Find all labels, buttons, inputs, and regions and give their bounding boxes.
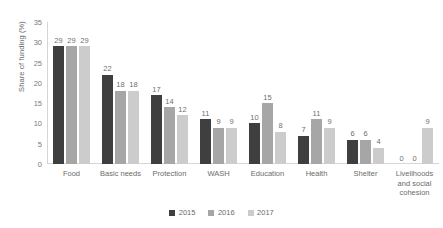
bar-value-label: 9	[229, 118, 233, 126]
bar-2015[interactable]	[151, 95, 162, 164]
y-axis-tick-0: 0	[38, 160, 42, 169]
bar-value-label: 6	[363, 130, 367, 138]
legend-item-2017[interactable]: 2017	[248, 208, 274, 217]
chart-legend: 201520162017	[0, 208, 443, 217]
bar-group: 221818	[96, 22, 145, 164]
bar-value-label: 11	[202, 110, 210, 118]
bar-2017[interactable]	[226, 128, 237, 165]
bar-2016[interactable]	[262, 103, 273, 164]
bar-group: 009	[390, 22, 439, 164]
x-axis-label: Education	[243, 169, 292, 198]
bar-2017[interactable]	[275, 132, 286, 164]
bar-slot: 0	[396, 22, 407, 164]
bar-slot: 6	[347, 22, 358, 164]
bar-2017[interactable]	[177, 115, 188, 164]
bar-2015[interactable]	[102, 75, 113, 164]
legend-swatch-icon	[248, 210, 254, 216]
legend-label: 2017	[257, 208, 274, 217]
bar-value-label: 9	[425, 118, 429, 126]
bar-2015[interactable]	[200, 119, 211, 164]
bar-groups: 2929292218181714121199101587119664009	[47, 22, 439, 164]
bar-2015[interactable]	[347, 140, 358, 164]
bar-slot: 14	[164, 22, 175, 164]
bar-value-label: 14	[165, 98, 173, 106]
bar-2016[interactable]	[66, 46, 77, 164]
bar-2015[interactable]	[249, 123, 260, 164]
bar-group: 1199	[194, 22, 243, 164]
bar-2017[interactable]	[324, 128, 335, 165]
bar-slot: 10	[249, 22, 260, 164]
legend-item-2015[interactable]: 2015	[169, 208, 195, 217]
bar-value-label: 29	[54, 37, 62, 45]
bar-chart: Share of funding (%) 35302520151050 2929…	[0, 0, 443, 228]
bar-value-label: 29	[80, 37, 88, 45]
bar-2017[interactable]	[422, 128, 433, 165]
bar-2016[interactable]	[115, 91, 126, 164]
bar-value-label: 18	[116, 81, 124, 89]
bar-value-label: 7	[301, 126, 305, 134]
x-axis-label: Food	[47, 169, 96, 198]
x-axis-label: Basic needs	[96, 169, 145, 198]
y-axis-tick-25: 25	[34, 58, 42, 67]
bar-2015[interactable]	[53, 46, 64, 164]
bar-2016[interactable]	[164, 107, 175, 164]
bar-slot: 8	[275, 22, 286, 164]
chart-title	[120, 0, 380, 2]
y-axis-tick-20: 20	[34, 78, 42, 87]
bar-value-label: 18	[129, 81, 137, 89]
bar-value-label: 22	[103, 65, 111, 73]
bar-slot: 9	[422, 22, 433, 164]
bar-slot: 0	[409, 22, 420, 164]
bar-2017[interactable]	[79, 46, 90, 164]
bar-2017[interactable]	[373, 148, 384, 164]
x-axis-label: Livelihoods and social cohesion	[390, 169, 439, 198]
bar-value-label: 8	[278, 122, 282, 130]
bar-slot: 9	[226, 22, 237, 164]
bar-slot: 6	[360, 22, 371, 164]
bar-value-label: 4	[376, 138, 380, 146]
bar-slot: 15	[262, 22, 273, 164]
x-axis-label: Health	[292, 169, 341, 198]
legend-swatch-icon	[169, 210, 175, 216]
bar-value-label: 6	[350, 130, 354, 138]
bar-slot: 18	[115, 22, 126, 164]
bar-slot: 18	[128, 22, 139, 164]
bar-slot: 29	[53, 22, 64, 164]
y-axis-tick-15: 15	[34, 99, 42, 108]
y-axis-title: Share of funding (%)	[17, 0, 26, 117]
bar-slot: 12	[177, 22, 188, 164]
bar-value-label: 12	[178, 106, 186, 114]
plot-area: 35302520151050 2929292218181714121199101…	[47, 22, 439, 164]
y-axis-tick-10: 10	[34, 119, 42, 128]
bar-group: 10158	[243, 22, 292, 164]
bar-slot: 29	[66, 22, 77, 164]
bar-2015[interactable]	[298, 136, 309, 164]
bar-slot: 9	[324, 22, 335, 164]
bar-value-label: 15	[263, 94, 271, 102]
legend-label: 2016	[218, 208, 235, 217]
bar-value-label: 29	[67, 37, 75, 45]
bar-2016[interactable]	[213, 128, 224, 165]
bar-value-label: 0	[399, 155, 403, 163]
bar-2016[interactable]	[360, 140, 371, 164]
bar-2017[interactable]	[128, 91, 139, 164]
x-axis-label: WASH	[194, 169, 243, 198]
bar-slot: 7	[298, 22, 309, 164]
bar-value-label: 0	[412, 155, 416, 163]
y-axis-tick-35: 35	[34, 18, 42, 27]
bar-value-label: 10	[250, 114, 258, 122]
x-axis-label: Shelter	[341, 169, 390, 198]
bar-value-label: 11	[313, 110, 321, 118]
bar-slot: 4	[373, 22, 384, 164]
bar-2016[interactable]	[311, 119, 322, 164]
bar-value-label: 9	[216, 118, 220, 126]
bar-group: 292929	[47, 22, 96, 164]
bar-slot: 11	[200, 22, 211, 164]
bar-slot: 11	[311, 22, 322, 164]
bar-group: 7119	[292, 22, 341, 164]
bar-slot: 29	[79, 22, 90, 164]
legend-label: 2015	[179, 208, 196, 217]
bar-value-label: 9	[327, 118, 331, 126]
legend-item-2016[interactable]: 2016	[208, 208, 234, 217]
x-axis-category-labels: FoodBasic needsProtectionWASHEducationHe…	[47, 169, 439, 198]
